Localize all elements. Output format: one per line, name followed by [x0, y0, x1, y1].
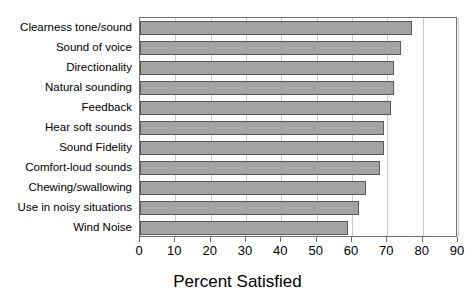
x-tick-label-10: 10: [159, 243, 189, 258]
category-label: Feedback: [0, 101, 132, 113]
x-tick-50: [316, 237, 317, 242]
x-tick-label-30: 30: [230, 243, 260, 258]
bar: [140, 221, 348, 235]
category-label: Chewing/swallowing: [0, 181, 132, 193]
x-axis: 0102030405060708090: [139, 237, 457, 267]
category-label: Hear soft sounds: [0, 121, 132, 133]
x-tick-label-20: 20: [195, 243, 225, 258]
x-tick-70: [386, 237, 387, 242]
category-label: Directionality: [0, 61, 132, 73]
bar: [140, 121, 384, 135]
x-tick-90: [457, 237, 458, 242]
gridline-80: [423, 18, 424, 236]
bar: [140, 61, 394, 75]
x-tick-label-40: 40: [265, 243, 295, 258]
x-tick-30: [245, 237, 246, 242]
category-label: Sound of voice: [0, 41, 132, 53]
x-tick-label-50: 50: [301, 243, 331, 258]
category-label: Natural sounding: [0, 81, 132, 93]
x-tick-0: [139, 237, 140, 242]
category-label: Sound Fidelity: [0, 141, 132, 153]
bar: [140, 201, 359, 215]
x-tick-20: [210, 237, 211, 242]
bar: [140, 141, 384, 155]
bar: [140, 81, 394, 95]
plot-area: [139, 17, 457, 237]
category-label: Comfort-loud sounds: [0, 161, 132, 173]
x-tick-10: [174, 237, 175, 242]
x-tick-label-0: 0: [124, 243, 154, 258]
x-tick-label-60: 60: [336, 243, 366, 258]
x-tick-label-80: 80: [407, 243, 437, 258]
gridline-90: [458, 18, 459, 236]
x-axis-title: Percent Satisfied: [0, 272, 475, 292]
bar: [140, 181, 366, 195]
category-axis: Clearness tone/soundSound of voiceDirect…: [0, 17, 136, 237]
x-tick-label-90: 90: [442, 243, 472, 258]
bar: [140, 161, 380, 175]
x-tick-80: [422, 237, 423, 242]
bar: [140, 101, 391, 115]
x-tick-40: [280, 237, 281, 242]
x-tick-label-70: 70: [371, 243, 401, 258]
bar: [140, 21, 412, 35]
category-label: Use in noisy situations: [0, 201, 132, 213]
bar-chart: Clearness tone/soundSound of voiceDirect…: [0, 0, 475, 303]
category-label: Clearness tone/sound: [0, 21, 132, 33]
bar: [140, 41, 401, 55]
category-label: Wind Noise: [0, 221, 132, 233]
x-tick-60: [351, 237, 352, 242]
